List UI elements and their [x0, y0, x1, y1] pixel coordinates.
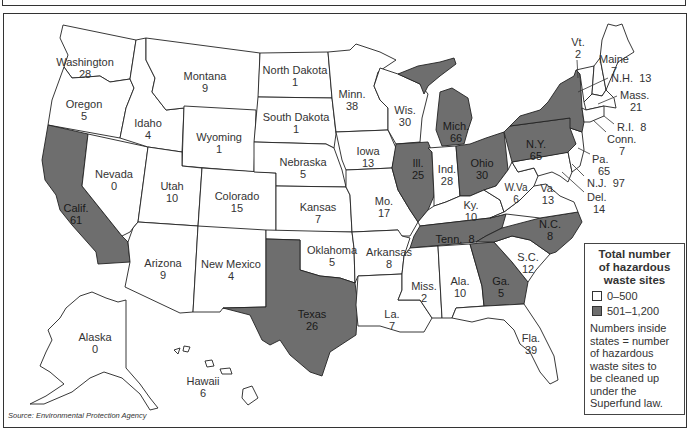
label-pennsylvania: N.Y.65	[526, 138, 546, 162]
label-massachusetts: Mass.21	[620, 89, 649, 113]
legend-item-high: 501–1,200	[592, 305, 679, 318]
label-maryland: Del.14	[587, 191, 607, 215]
label-rhode-island: R.I. 8	[617, 121, 646, 133]
legend-title: Total number of hazardous waste sites	[590, 248, 679, 287]
legend: Total number of hazardous waste sites 0–…	[584, 243, 685, 415]
label-hawaii: Hawaii6	[186, 375, 219, 399]
label-vermont: Vt.2	[571, 36, 584, 60]
legend-swatch-gray-icon	[592, 306, 602, 316]
legend-note: Numbers inside states = number of hazard…	[590, 322, 679, 410]
label-new-jersey: Pa.65	[592, 153, 610, 177]
source-credit: Source: Environmental Protection Agency	[8, 411, 147, 420]
legend-swatch-white-icon	[592, 291, 602, 301]
legend-item-low: 0–500	[592, 290, 679, 303]
label-delaware: N.J. 97	[587, 177, 625, 189]
label-maine: Maine7	[599, 53, 629, 77]
label-connecticut: Conn.7	[607, 133, 636, 157]
label-alaska: Alaska0	[78, 331, 111, 355]
